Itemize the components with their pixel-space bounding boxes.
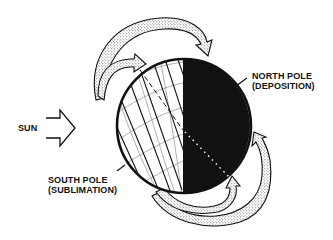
south-pole-leader <box>117 165 125 171</box>
diagram: SUN NORTH POLE (DEPOSITION) SOUTH POLE (… <box>0 0 333 240</box>
south-pole-title: SOUTH POLE <box>48 175 117 185</box>
sun-arrow-icon <box>46 110 75 146</box>
sun-arrows <box>46 110 75 146</box>
south-pole-process: (SUBLIMATION) <box>48 185 117 195</box>
north-pole-label: NORTH POLE (DEPOSITION) <box>252 71 315 91</box>
north-pole-title: NORTH POLE <box>252 71 315 81</box>
south-pole-label: SOUTH POLE (SUBLIMATION) <box>48 175 117 195</box>
sun-label: SUN <box>18 123 37 133</box>
dark-hemisphere <box>183 59 250 193</box>
diagram-graphic <box>0 0 333 240</box>
north-pole-leader <box>236 78 247 86</box>
north-pole-process: (DEPOSITION) <box>252 81 315 91</box>
